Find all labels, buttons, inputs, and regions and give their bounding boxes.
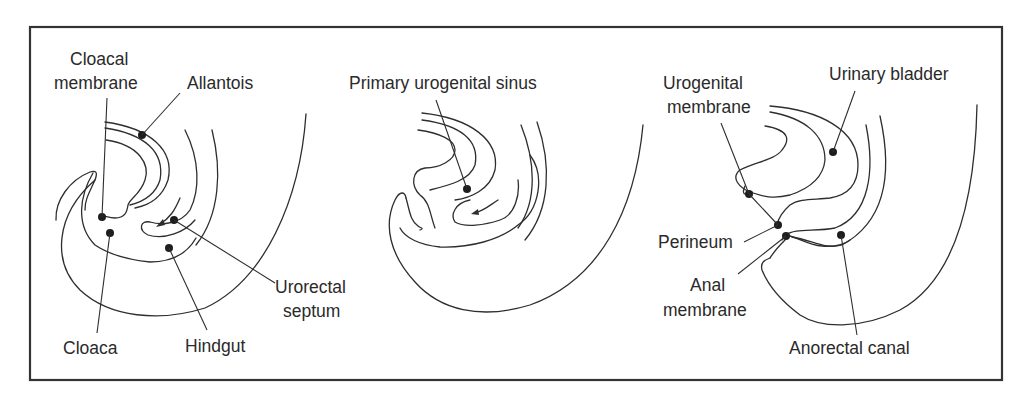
sinus-middle-layer — [422, 120, 476, 190]
label-urinary-bladder: Urinary bladder — [829, 64, 949, 84]
label-urorectal-septum-2: septum — [283, 301, 340, 321]
leader-cloacal-membrane — [102, 98, 107, 217]
body-wall-outline — [62, 114, 306, 316]
panel-intermediate-urogenital-sinus: Primary urogenital sinus — [349, 73, 643, 312]
allantois-inner — [100, 140, 146, 218]
leader-primary-urogenital-sinus — [436, 100, 467, 189]
leader-allantois — [142, 93, 180, 135]
anal-fold — [770, 238, 786, 258]
panel-early-cloaca: Cloacal membrane Allantois Urorectal sep… — [54, 49, 346, 358]
label-cloacal-membrane-2: membrane — [54, 73, 138, 93]
label-anal-membrane-2: membrane — [663, 300, 747, 320]
leader-anorectal-canal — [841, 235, 857, 335]
label-anorectal-canal: Anorectal canal — [789, 338, 910, 358]
bladder-inner — [736, 112, 825, 197]
label-anal-membrane-1: Anal — [690, 275, 725, 295]
panel-late-partitioned-cloaca: Urogenital membrane Urinary bladder Peri… — [658, 64, 977, 358]
label-allantois: Allantois — [187, 73, 253, 93]
arrowhead-icon — [471, 209, 479, 215]
sinus-outer-layer — [422, 113, 496, 200]
body-wall-outline — [762, 105, 977, 325]
cloaca-development-diagram: Cloacal membrane Allantois Urorectal sep… — [0, 0, 1035, 400]
leader-urorectal-septum — [174, 220, 275, 283]
label-perineum: Perineum — [658, 232, 733, 252]
label-primary-urogenital-sinus: Primary urogenital sinus — [349, 73, 537, 93]
leader-urogenital-membrane — [721, 123, 749, 194]
label-urorectal-septum-1: Urorectal — [275, 277, 346, 297]
leader-hindgut — [169, 248, 207, 330]
tail-fold — [406, 198, 422, 230]
body-wall-outline — [389, 125, 643, 312]
sinus-inner-layer — [414, 130, 455, 228]
hindgut-wall — [196, 130, 218, 245]
label-urogenital-membrane-2: membrane — [667, 97, 751, 117]
label-cloaca: Cloaca — [63, 338, 118, 358]
bladder-outer — [770, 106, 858, 225]
label-hindgut: Hindgut — [185, 336, 245, 356]
leader-perineum — [744, 225, 778, 242]
hindgut-wall-outer — [525, 122, 546, 240]
label-cloacal-membrane-1: Cloacal — [70, 49, 128, 69]
label-urogenital-membrane-1: Urogenital — [663, 73, 743, 93]
leader-urogenital-membrane-to-perineum — [749, 194, 778, 225]
septum-growth-arrow — [475, 200, 498, 213]
rectum-inner-wall — [786, 125, 870, 235]
